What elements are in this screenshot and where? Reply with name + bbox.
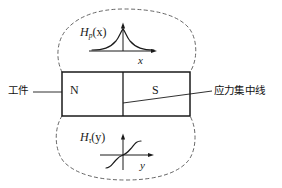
workpiece-label: 工件: [8, 85, 28, 96]
ht-argument: (y): [91, 130, 105, 144]
y-axis-tick-label: y: [140, 160, 145, 171]
x-axis-tick-label: x: [138, 55, 143, 66]
hp-argument: (x): [92, 25, 106, 39]
north-pole-label: N: [70, 84, 79, 96]
lower-field-envelope-dashed: [56, 116, 195, 180]
ht-axis-label: Hτ(y): [80, 131, 105, 144]
ht-vertical-axis-arrowhead: [121, 134, 125, 140]
workpiece-rectangle: [62, 72, 190, 116]
stress-line-leader: [123, 91, 212, 103]
hp-axis-label: Hp(x): [80, 26, 106, 39]
ht-symbol: H: [80, 130, 89, 144]
upper-field-envelope-dashed: [58, 9, 196, 72]
figure-canvas: Hp(x) Hτ(y) x y N S 工件 应力集中线: [0, 0, 282, 188]
ht-horizontal-axis-arrowhead: [148, 153, 154, 157]
hp-vertical-axis-arrowhead: [121, 23, 125, 29]
hp-symbol: H: [80, 25, 89, 39]
south-pole-label: S: [152, 84, 159, 96]
stress-concentration-line-label: 应力集中线: [214, 85, 265, 96]
